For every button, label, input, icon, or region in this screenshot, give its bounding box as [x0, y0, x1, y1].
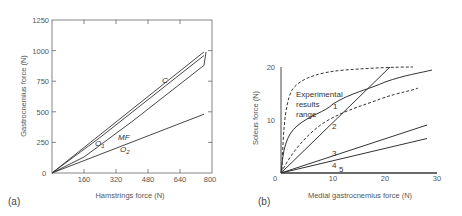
chart-a-xtick-160: 160 — [78, 175, 91, 184]
chart-a-xlabel: Hamstrings force (N) — [95, 191, 165, 200]
chart-a-xtick-800: 800 — [204, 175, 217, 184]
chart-a-xtick-320: 320 — [110, 175, 123, 184]
figure: 0 250 500 750 1000 1250 160 320 480 640 … — [0, 0, 462, 216]
chart-a-label-c: C — [162, 76, 168, 85]
chart-b-series — [281, 67, 437, 173]
chart-a-frame — [52, 20, 212, 173]
chart-b: 20 10 0 10 20 30 Medial gastrocnemius fo… — [251, 63, 441, 207]
series-o2 — [52, 114, 204, 173]
chart-a-ytick-250: 250 — [36, 138, 49, 147]
chart-a-label-o2: O2 — [120, 145, 130, 155]
series-4 — [281, 139, 427, 174]
chart-a-label-mf: MF — [118, 133, 131, 142]
chart-a-xtick-480: 480 — [142, 175, 155, 184]
chart-b-label-results: results — [296, 100, 320, 109]
chart-a-ylabel: Gastrocnemius force (N) — [19, 55, 28, 137]
chart-a-ytick-1250: 1250 — [32, 16, 49, 25]
chart-a-xtick-640: 640 — [174, 175, 187, 184]
panel-b-label: (b) — [258, 196, 270, 207]
series-1 — [281, 70, 432, 173]
chart-b-xtick-0: 0 — [273, 174, 277, 183]
chart-b-xtick-30: 30 — [433, 174, 441, 183]
chart-b-xtick-20: 20 — [381, 174, 389, 183]
chart-b-label-2: 2 — [332, 122, 337, 131]
chart-b-ytick-10: 10 — [267, 116, 275, 125]
chart-b-label-5: 5 — [339, 165, 344, 174]
chart-b-ylabel: Soleus force (N) — [251, 90, 260, 145]
chart-b-ytick-20: 20 — [267, 63, 275, 72]
chart-a-xticks — [52, 20, 212, 173]
chart-a-ytick-500: 500 — [36, 108, 49, 117]
chart-a-label-o1: O1 — [95, 139, 105, 149]
chart-b-xlabel: Medial gastrocnemius force (N) — [308, 191, 413, 200]
chart-a-ytick-750: 750 — [36, 77, 49, 86]
chart-a-ytick-1000: 1000 — [32, 47, 49, 56]
chart-b-label-1: 1 — [333, 102, 338, 111]
chart-b-label-3: 3 — [332, 149, 337, 158]
chart-a-ytick-0: 0 — [42, 169, 46, 178]
panel-a-label: (a) — [8, 196, 20, 207]
chart-b-label-experimental: Experimental — [296, 90, 343, 99]
chart-b-xtick-10: 10 — [329, 174, 337, 183]
chart-b-label-range: range — [296, 110, 317, 119]
chart-a: 0 250 500 750 1000 1250 160 320 480 640 … — [8, 16, 216, 207]
series-3 — [281, 125, 427, 173]
chart-b-label-4: 4 — [332, 161, 337, 170]
